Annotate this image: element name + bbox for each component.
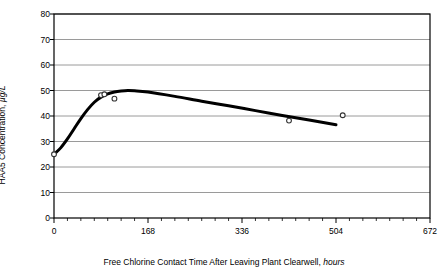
x-axis-title: Free Chlorine Contact Time After Leaving… [0, 257, 448, 267]
x-tick-label-layer: 0168336504672 [0, 0, 448, 270]
x-tick-label: 0 [52, 226, 57, 236]
y-axis-title-text: HAA5 Concentration, [0, 105, 7, 185]
x-tick-label: 672 [423, 226, 437, 236]
x-tick-label: 504 [329, 226, 343, 236]
y-axis-title-units: µg/L [0, 86, 7, 103]
haa5-concentration-chart: 01020304050607080 0168336504672 HAA5 Con… [0, 0, 448, 270]
x-axis-title-text: Free Chlorine Contact Time After Leaving… [104, 257, 321, 267]
x-tick-label: 336 [235, 226, 249, 236]
x-tick-label: 168 [141, 226, 155, 236]
x-axis-title-units: hours [323, 257, 344, 267]
